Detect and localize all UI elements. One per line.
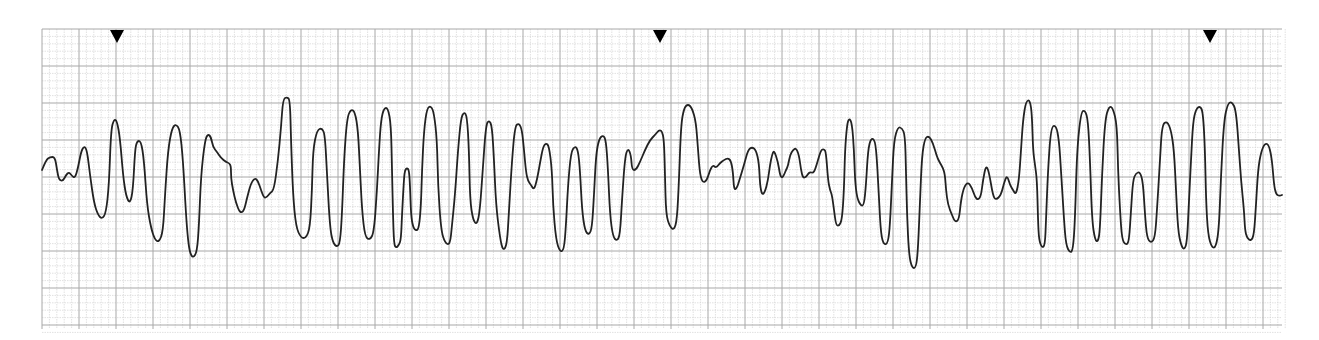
ecg-strip (0, 0, 1319, 340)
